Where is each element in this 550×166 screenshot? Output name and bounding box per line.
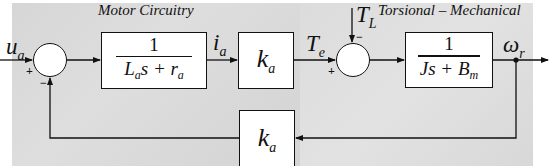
block-diagram: Motor Circuitry Torsional – Mechanical +… xyxy=(0,0,550,166)
mechanical-numerator: 1 xyxy=(444,33,454,55)
armature-denominator: Las + ra xyxy=(124,57,184,87)
mechanical-transfer-block: 1 Js + Bm xyxy=(405,32,493,88)
armature-numerator: 1 xyxy=(149,34,159,56)
signal-label-omega-r: ωr xyxy=(503,32,525,62)
torque-constant-block: ka xyxy=(238,32,294,89)
summing-junction-torque xyxy=(336,43,370,77)
minus-sign-backemf: − xyxy=(40,76,47,91)
back-emf-gain: ka xyxy=(258,123,277,156)
plus-sign-ua: + xyxy=(26,64,33,79)
armature-fraction: 1 Las + ra xyxy=(116,34,192,87)
signal-label-ia: ia xyxy=(213,30,226,60)
mechanical-denominator: Js + Bm xyxy=(420,57,478,87)
back-emf-block: ka xyxy=(239,110,295,166)
signal-label-ua: ua xyxy=(6,34,25,64)
signal-label-te: Te xyxy=(306,31,325,61)
mechanical-fraction: 1 Js + Bm xyxy=(418,33,480,86)
plus-sign-te: + xyxy=(328,64,335,79)
signal-label-tl: TL xyxy=(356,2,377,32)
armature-transfer-block: 1 Las + ra xyxy=(101,32,207,89)
torque-constant-gain: ka xyxy=(257,44,276,77)
minus-sign-tl: − xyxy=(356,30,363,45)
summing-junction-voltage xyxy=(33,43,67,77)
